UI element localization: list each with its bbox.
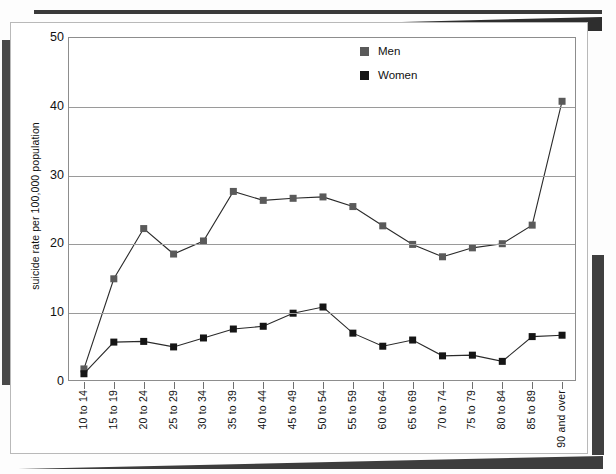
x-tick-mark xyxy=(263,382,264,389)
legend-item-men: Men xyxy=(360,45,417,57)
x-tick-mark xyxy=(502,382,503,389)
data-point-marker xyxy=(290,195,297,202)
data-point-marker xyxy=(140,225,147,232)
y-tick-label: 50 xyxy=(30,30,64,44)
x-tick-mark xyxy=(203,382,204,389)
x-tick-label: 75 to 79 xyxy=(465,390,477,430)
x-tick-label: 90 and over xyxy=(555,390,567,448)
x-tick-label: 55 to 59 xyxy=(346,390,358,430)
x-tick-mark xyxy=(144,382,145,389)
data-point-marker xyxy=(349,330,356,337)
gridline xyxy=(69,313,575,314)
data-point-marker xyxy=(320,193,327,200)
x-tick-label: 45 to 49 xyxy=(286,390,298,430)
x-tick-mark xyxy=(383,382,384,389)
y-tick-label: 30 xyxy=(30,168,64,182)
x-tick-mark xyxy=(323,382,324,389)
legend-swatch-icon xyxy=(360,71,369,80)
data-point-marker xyxy=(320,304,327,311)
chart-legend: MenWomen xyxy=(360,45,417,93)
page-canvas: suicide rate per 100,000 population 0102… xyxy=(0,0,616,474)
data-point-marker xyxy=(409,337,416,344)
data-point-marker xyxy=(260,197,267,204)
data-point-marker xyxy=(200,334,207,341)
x-tick-mark xyxy=(114,382,115,389)
gridline xyxy=(69,176,575,177)
data-point-marker xyxy=(170,251,177,258)
x-tick-mark xyxy=(413,382,414,389)
x-tick-label: 65 to 69 xyxy=(406,390,418,430)
data-point-marker xyxy=(230,188,237,195)
y-axis-ticks: 01020304050 xyxy=(30,0,64,474)
data-point-marker xyxy=(230,326,237,333)
y-tick-label: 10 xyxy=(30,305,64,319)
data-point-marker xyxy=(529,333,536,340)
x-tick-label: 60 to 64 xyxy=(376,390,388,430)
legend-item-women: Women xyxy=(360,69,417,81)
x-tick-mark xyxy=(532,382,533,389)
y-tick-label: 40 xyxy=(30,99,64,113)
data-point-marker xyxy=(140,338,147,345)
x-tick-label: 35 to 39 xyxy=(226,390,238,430)
x-tick-mark xyxy=(233,382,234,389)
x-tick-label: 80 to 84 xyxy=(495,390,507,430)
x-tick-mark xyxy=(174,382,175,389)
line-chart: suicide rate per 100,000 population 0102… xyxy=(0,0,616,474)
series-line-women xyxy=(84,307,562,374)
x-tick-label: 15 to 19 xyxy=(107,390,119,430)
data-point-marker xyxy=(529,222,536,229)
legend-label: Women xyxy=(378,69,417,81)
data-point-marker xyxy=(170,343,177,350)
y-tick-label: 0 xyxy=(30,374,64,388)
data-point-marker xyxy=(559,332,566,339)
data-point-marker xyxy=(499,358,506,365)
x-tick-mark xyxy=(472,382,473,389)
x-tick-label: 40 to 44 xyxy=(256,390,268,430)
legend-label: Men xyxy=(378,45,400,57)
x-tick-label: 30 to 34 xyxy=(196,390,208,430)
x-tick-label: 25 to 29 xyxy=(167,390,179,430)
gridline xyxy=(69,107,575,108)
plot-area xyxy=(68,37,576,381)
series-line-men xyxy=(84,101,562,369)
y-tick-label: 20 xyxy=(30,236,64,250)
x-tick-mark xyxy=(562,382,563,389)
legend-swatch-icon xyxy=(360,47,369,56)
x-tick-label: 20 to 24 xyxy=(137,390,149,430)
x-tick-label: 70 to 74 xyxy=(436,390,448,430)
data-point-marker xyxy=(349,203,356,210)
x-tick-mark xyxy=(443,382,444,389)
data-point-marker xyxy=(379,222,386,229)
x-tick-mark xyxy=(84,382,85,389)
series-lines xyxy=(69,38,577,382)
data-point-marker xyxy=(379,343,386,350)
data-point-marker xyxy=(439,253,446,260)
x-tick-label: 50 to 54 xyxy=(316,390,328,430)
data-point-marker xyxy=(110,275,117,282)
data-point-marker xyxy=(469,352,476,359)
gridline xyxy=(69,244,575,245)
x-tick-mark xyxy=(353,382,354,389)
x-tick-label: 85 to 89 xyxy=(525,390,537,430)
data-point-marker xyxy=(559,98,566,105)
data-point-marker xyxy=(80,370,87,377)
x-tick-mark xyxy=(293,382,294,389)
data-point-marker xyxy=(260,323,267,330)
x-tick-label: 10 to 14 xyxy=(77,390,89,430)
data-point-marker xyxy=(110,339,117,346)
data-point-marker xyxy=(439,352,446,359)
